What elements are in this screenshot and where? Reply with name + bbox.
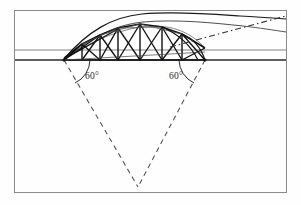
figure-container: 60° 60° xyxy=(0,0,301,205)
left-support-node xyxy=(62,58,65,61)
angle-label-right: 60° xyxy=(169,71,183,81)
right-support-node xyxy=(203,58,206,61)
page-background xyxy=(0,0,301,205)
angle-label-left: 60° xyxy=(85,71,99,81)
truss-diagram-svg: 60° 60° xyxy=(0,0,301,205)
